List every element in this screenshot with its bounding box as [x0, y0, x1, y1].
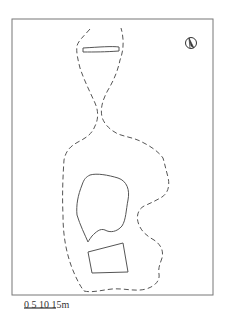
site-boundary-dashed: [63, 28, 169, 292]
upper-bar-structure: [83, 47, 119, 52]
central-enclosure: [77, 174, 129, 242]
north-arrow-icon: [186, 38, 197, 49]
map-frame: [12, 19, 213, 295]
site-plan-map: [0, 0, 226, 330]
scale-bar-label: 0 5 10 15m: [24, 299, 69, 310]
lower-rectangle-structure: [88, 243, 128, 273]
